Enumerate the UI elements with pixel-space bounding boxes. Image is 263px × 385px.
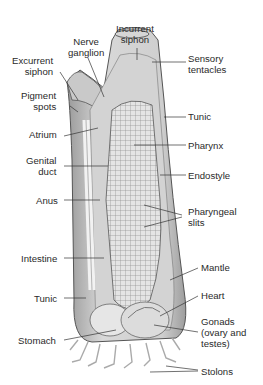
pharynx-basket — [106, 101, 161, 309]
label-pharynx: Pharynx — [188, 140, 223, 151]
label-pharyngeal-slits: Pharyngeal slits — [188, 206, 237, 228]
label-intestine: Intestine — [21, 253, 57, 264]
label-stomach: Stomach — [18, 335, 56, 346]
label-heart: Heart — [201, 290, 224, 301]
label-sensory-tentacles: Sensory tentacles — [188, 53, 226, 75]
label-excurrent-siphon: Excurrent siphon — [12, 55, 53, 77]
label-anus: Anus — [36, 195, 58, 206]
label-stolons: Stolons — [201, 366, 233, 377]
tunicate-anatomy-diagram: Incurrent siphon Nerve ganglion Excurren… — [0, 0, 263, 385]
label-gonads: Gonads (ovary and testes) — [201, 316, 246, 349]
label-endostyle: Endostyle — [188, 170, 230, 181]
label-tunic-top: Tunic — [188, 111, 211, 122]
label-tunic-bottom: Tunic — [34, 293, 57, 304]
label-atrium: Atrium — [29, 129, 57, 140]
label-nerve-ganglion: Nerve ganglion — [68, 36, 104, 58]
label-genital-duct: Genital duct — [26, 155, 56, 177]
label-pigment-spots: Pigment spots — [21, 90, 56, 112]
label-incurrent-siphon: Incurrent siphon — [116, 23, 154, 45]
label-mantle: Mantle — [201, 262, 230, 273]
stolons-roots — [70, 338, 180, 368]
